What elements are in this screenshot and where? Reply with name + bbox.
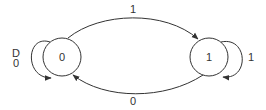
- state-diagram: 1 0 D 0 1 0 1: [0, 0, 266, 110]
- state-0-label: 0: [59, 51, 65, 63]
- transition-0-to-1-label: 1: [130, 3, 136, 15]
- transition-1-to-0: [73, 75, 203, 94]
- transition-0-to-1: [68, 18, 198, 39]
- state-1: 1: [190, 38, 228, 76]
- state-1-label: 1: [206, 51, 212, 63]
- self-loop-0-label-line2: 0: [13, 57, 19, 69]
- self-loop-1-label: 1: [248, 51, 254, 63]
- state-0: 0: [43, 38, 81, 76]
- transition-1-to-0-label: 0: [130, 95, 136, 107]
